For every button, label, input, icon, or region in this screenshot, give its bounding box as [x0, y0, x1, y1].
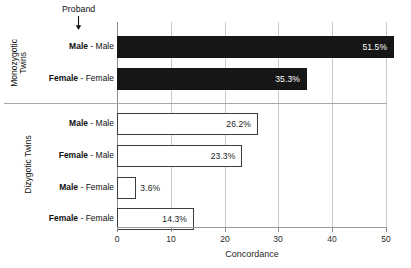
category-separator: -	[88, 41, 96, 51]
category-proband-term: Male	[69, 41, 88, 51]
bar-value-mz-male-male: 51.5%	[362, 42, 387, 52]
category-label-dz-female-female: Female - Female	[2, 214, 114, 223]
bar-value-dz-male-male: 26.2%	[226, 119, 251, 129]
tick-mark-0	[117, 227, 118, 232]
tick-label-10: 10	[156, 234, 186, 244]
category-proband-term: Female	[49, 213, 78, 223]
bar-mz-male-male: 51.5%	[117, 36, 394, 58]
category-separator: -	[88, 150, 96, 160]
category-label-dz-male-male: Male - Male	[2, 119, 114, 128]
proband-annotation-label: Proband	[62, 4, 95, 14]
category-partner-term: Male	[96, 150, 114, 160]
category-partner-term: Female	[86, 182, 114, 192]
tick-label-40: 40	[317, 234, 347, 244]
category-proband-term: Male	[59, 182, 78, 192]
bar-value-dz-female-female: 14.3%	[162, 214, 187, 224]
category-separator: -	[88, 118, 96, 128]
category-partner-term: Female	[86, 73, 114, 83]
plot-area: 51.5% 35.3% 26.2% 23.3% 3.6% 14.3%	[117, 22, 386, 227]
group-label-monozygotic: Monozygotic Twins	[10, 27, 28, 99]
x-axis-baseline	[117, 227, 387, 228]
arrow-down-icon	[74, 16, 83, 30]
group-label-monozygotic-line2: Twins	[19, 27, 28, 99]
x-axis-title: Concordance	[117, 249, 387, 259]
category-proband-term: Male	[69, 118, 88, 128]
bar-dz-male-female: 3.6%	[117, 177, 136, 199]
tick-mark-10	[171, 227, 172, 232]
category-separator: -	[78, 182, 86, 192]
tick-mark-30	[278, 227, 279, 232]
bar-dz-female-male: 23.3%	[117, 145, 242, 167]
tick-mark-20	[225, 227, 226, 232]
tick-mark-40	[332, 227, 333, 232]
tick-label-0: 0	[102, 234, 132, 244]
tick-label-20: 20	[210, 234, 240, 244]
category-proband-term: Female	[49, 73, 78, 83]
tick-mark-50	[386, 227, 387, 232]
category-label-dz-female-male: Female - Male	[2, 151, 114, 160]
concordance-bar-chart: Proband Monozygotic Twins Dizygotic Twin…	[0, 0, 411, 268]
group-label-dizygotic: Dizygotic Twins	[24, 124, 33, 204]
bar-value-dz-female-male: 23.3%	[211, 151, 236, 161]
tick-label-50: 50	[371, 234, 401, 244]
tick-label-30: 30	[263, 234, 293, 244]
category-proband-term: Female	[59, 150, 88, 160]
category-separator: -	[78, 213, 86, 223]
category-label-dz-male-female: Male - Female	[2, 183, 114, 192]
category-separator: -	[78, 73, 86, 83]
category-label-mz-female-female: Female - Female	[2, 74, 114, 83]
bar-value-mz-female-female: 35.3%	[275, 74, 300, 84]
group-divider	[4, 103, 387, 104]
category-partner-term: Female	[86, 213, 114, 223]
bar-mz-female-female: 35.3%	[117, 68, 307, 90]
category-label-mz-male-male: Male - Male	[2, 42, 114, 51]
bar-dz-male-male: 26.2%	[117, 113, 258, 135]
category-partner-term: Male	[96, 118, 114, 128]
category-partner-term: Male	[96, 41, 114, 51]
bar-value-dz-male-female: 3.6%	[140, 183, 160, 193]
